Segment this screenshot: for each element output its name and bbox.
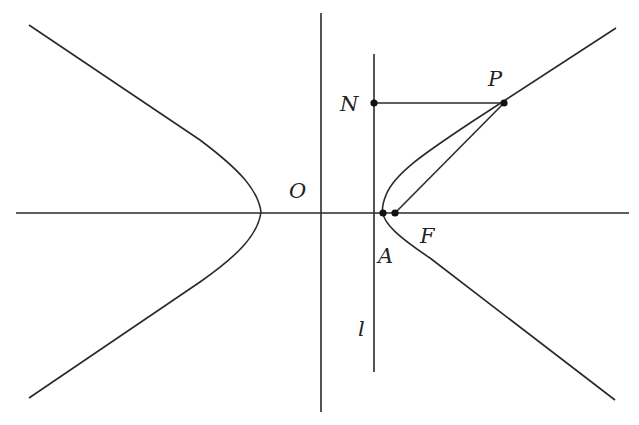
- point-N: [370, 99, 377, 106]
- hyperbola-left-branch: [29, 25, 261, 398]
- point-P: [500, 99, 507, 106]
- label-F: F: [419, 224, 436, 248]
- label-l: l: [358, 317, 365, 341]
- label-N: N: [339, 92, 359, 116]
- segment-PF: [395, 103, 504, 213]
- point-A: [379, 209, 386, 216]
- label-P: P: [487, 67, 503, 91]
- label-A: A: [376, 244, 393, 268]
- hyperbola-diagram: O N P A F l: [0, 0, 639, 425]
- point-F: [391, 209, 398, 216]
- label-O: O: [289, 179, 306, 203]
